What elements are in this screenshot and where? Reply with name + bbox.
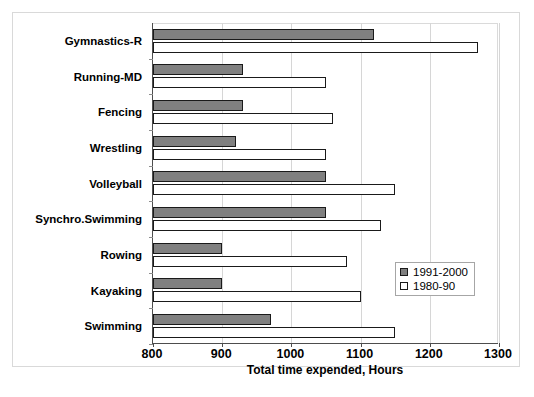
bar-group [153,94,498,130]
category-label: Kayaking [10,285,142,297]
bar-group [153,308,498,344]
bar-recent [153,243,222,254]
bar-group [153,166,498,202]
legend-entry-recent: 1991-2000 [400,266,468,278]
bar-older [153,42,478,53]
bar-older [153,220,381,231]
chart-legend: 1991-2000 1980-90 [395,262,475,296]
category-label: Synchro.Swimming [10,213,142,225]
category-label: Running-MD [10,71,142,83]
category-label: Gymnastics-R [10,35,142,47]
value-tick-label: 1000 [276,347,304,361]
bar-recent [153,29,374,40]
category-label: Wrestling [10,142,142,154]
legend-entry-older: 1980-90 [400,280,468,292]
bar-older [153,291,361,302]
legend-label-1980-90: 1980-90 [413,280,455,292]
bar-recent [153,64,243,75]
value-tick-label: 1300 [484,347,512,361]
legend-label-1991-2000: 1991-2000 [413,266,468,278]
bar-older [153,256,347,267]
bar-group [153,59,498,95]
category-axis-labels: Gymnastics-RRunning-MDFencingWrestlingVo… [13,23,148,344]
bar-older [153,184,395,195]
value-tick-label: 1200 [415,347,443,361]
category-label: Swimming [10,320,142,332]
category-label: Fencing [10,106,142,118]
category-label: Rowing [10,249,142,261]
legend-swatch-icon-1980-90 [400,282,408,290]
category-label: Volleyball [10,178,142,190]
x-axis-title: Total time expended, Hours [152,363,498,377]
bar-recent [153,171,326,182]
value-tick-label: 800 [142,347,163,361]
bar-older [153,77,326,88]
value-tick-label: 1100 [346,347,373,361]
gridline [499,23,500,343]
bar-older [153,149,326,160]
bar-recent [153,207,326,218]
bar-recent [153,314,271,325]
bar-chart-figure: Gymnastics-RRunning-MDFencingWrestlingVo… [12,12,520,367]
bar-recent [153,136,236,147]
bar-recent [153,278,222,289]
bar-older [153,113,333,124]
bar-group [153,201,498,237]
bar-recent [153,100,243,111]
value-tick-label: 900 [211,347,232,361]
value-axis-tick-labels: 8009001000110012001300 [152,347,498,363]
bar-group [153,130,498,166]
legend-swatch-icon-1991-2000 [400,268,408,276]
bar-older [153,327,395,338]
bar-group [153,23,498,59]
